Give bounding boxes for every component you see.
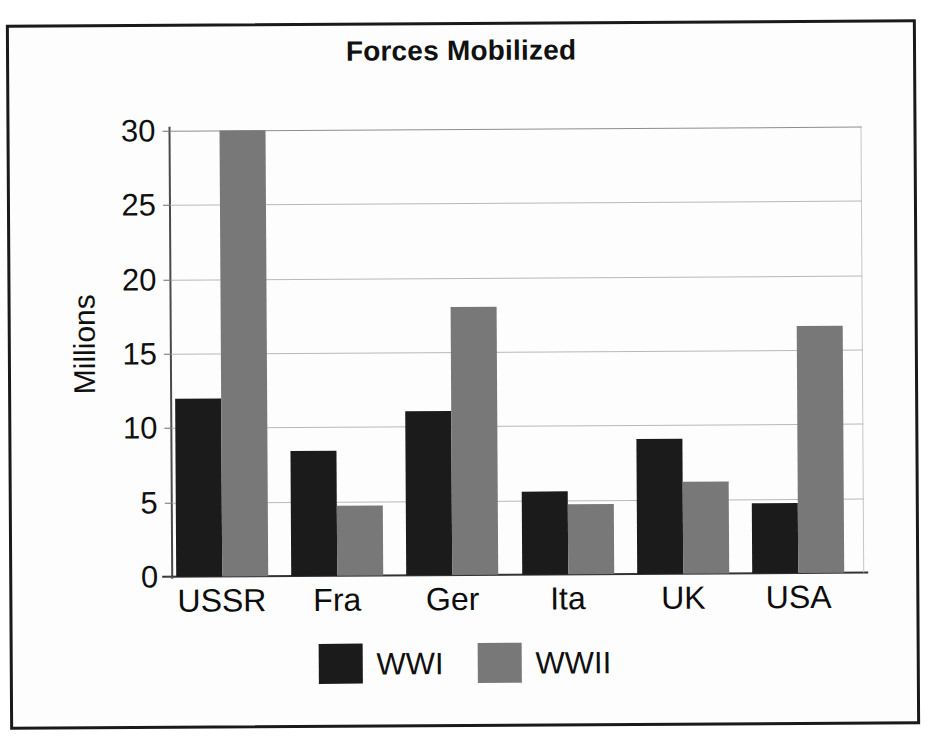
bar-group <box>288 129 383 576</box>
x-axis-tick-labels: USSRFraGerItaUKUSA <box>172 579 864 629</box>
y-axis-tick-mark <box>164 354 172 355</box>
bar-ussr-wwi <box>175 398 222 577</box>
bar-usa-wwi <box>752 503 798 573</box>
y-axis-tick-mark <box>163 131 171 132</box>
x-axis-tick-label-ger: Ger <box>426 581 480 618</box>
y-axis-tick-label: 0 <box>96 561 158 592</box>
bar-group <box>519 128 614 575</box>
bar-group <box>750 127 845 574</box>
x-axis-tick-label-usa: USA <box>766 579 832 616</box>
chart-canvas: Forces Mobilized Millions 051015202530 U… <box>9 22 917 727</box>
x-axis-tick-label-ussr: USSR <box>177 582 266 620</box>
legend-swatch-wwii <box>477 643 521 683</box>
bar-fra-wwi <box>290 451 337 576</box>
chart-title: Forces Mobilized <box>9 32 913 70</box>
legend-label-wwi: WWI <box>376 648 443 679</box>
bar-ita-wwi <box>521 491 568 575</box>
bar-group <box>173 130 268 577</box>
y-axis-tick-labels: 051015202530 <box>94 131 159 577</box>
legend-label-wwii: WWII <box>535 647 611 678</box>
y-axis-tick-label: 25 <box>94 190 156 221</box>
y-axis-tick-label: 30 <box>93 115 155 146</box>
bar-ussr-wwii <box>219 130 268 576</box>
y-axis-tick-mark <box>165 577 173 578</box>
y-axis-tick-label: 10 <box>95 413 157 444</box>
y-axis-tick-mark <box>164 428 172 429</box>
bar-ger-wwi <box>405 412 452 576</box>
y-axis-tick-mark <box>163 279 171 280</box>
chart-frame: Forces Mobilized Millions 051015202530 U… <box>6 19 920 730</box>
x-axis-tick-label-fra: Fra <box>313 582 361 619</box>
x-axis-tick-label-ita: Ita <box>550 580 586 617</box>
bar-usa-wwii <box>797 326 845 573</box>
y-axis-tick-label: 20 <box>94 264 156 295</box>
legend-entry-wwii[interactable]: WWII <box>477 642 611 683</box>
legend-swatch-wwi <box>318 644 362 684</box>
legend-entry-wwi[interactable]: WWI <box>318 643 443 684</box>
bar-group <box>634 127 729 574</box>
x-axis-tick-label-uk: UK <box>661 580 706 617</box>
bar-uk-wwi <box>636 438 683 574</box>
y-axis-tick-label: 15 <box>95 338 157 369</box>
y-axis-tick-mark <box>163 205 171 206</box>
bar-uk-wwii <box>683 481 730 573</box>
plot-area <box>170 127 865 577</box>
y-axis-tick-mark <box>165 502 173 503</box>
bar-ita-wwii <box>567 504 613 574</box>
chart-legend: WWIWWII <box>13 640 917 686</box>
bar-group <box>404 129 499 576</box>
y-axis-tick-label: 5 <box>96 487 158 518</box>
bar-ger-wwii <box>451 307 499 575</box>
bar-fra-wwii <box>337 506 383 576</box>
